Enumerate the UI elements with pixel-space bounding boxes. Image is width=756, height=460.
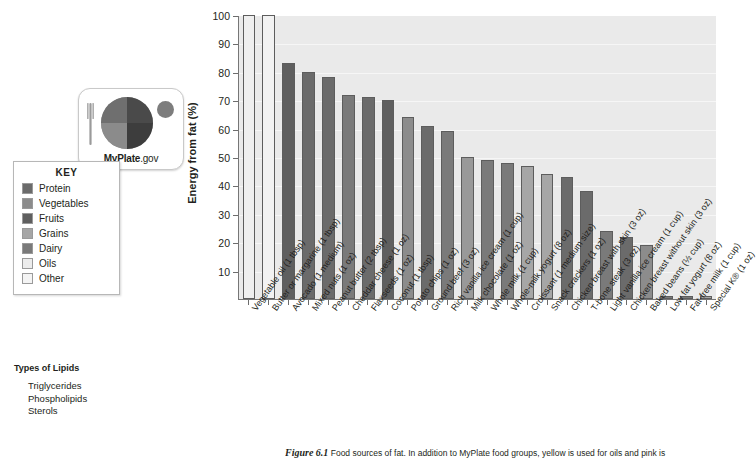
chart-legend: KEY ProteinVegetablesFruitsGrainsDairyOi…: [13, 161, 120, 295]
y-tick-label: 100: [196, 10, 230, 22]
y-tick-label: 10: [196, 266, 230, 278]
lipids-heading: Types of Lipids: [14, 363, 164, 373]
myplate-logo: MyPlate.gov: [78, 88, 184, 170]
myplate-domain: .gov: [140, 153, 158, 164]
y-tick-label: 30: [196, 209, 230, 221]
legend-item-label: Oils: [39, 259, 56, 269]
legend-item: Dairy: [14, 241, 119, 256]
bar: [243, 15, 256, 299]
legend-swatch: [22, 258, 33, 269]
legend-item-label: Grains: [39, 229, 68, 239]
legend-item: Fruits: [14, 211, 119, 226]
dairy-cup-icon: [157, 101, 174, 118]
y-tick-label: 40: [196, 180, 230, 192]
legend-item: Oils: [14, 256, 119, 271]
bar-slot: [259, 16, 279, 299]
y-tick-label: 50: [196, 152, 230, 164]
legend-swatch: [22, 273, 33, 284]
plate-icon: [101, 97, 153, 149]
figure-caption-text: Food sources of fat. In addition to MyPl…: [331, 448, 666, 458]
legend-swatch: [22, 198, 33, 209]
bar-slot: [239, 16, 259, 299]
legend-item-label: Protein: [39, 184, 71, 194]
fork-icon: [87, 103, 94, 145]
figure-caption: Figure 6.1 Food sources of fat. In addit…: [285, 447, 717, 459]
lipid-item: Sterols: [28, 405, 164, 418]
legend-item: Grains: [14, 226, 119, 241]
legend-item: Other: [14, 271, 119, 286]
legend-item: Vegetables: [14, 196, 119, 211]
y-tick-label: 60: [196, 124, 230, 136]
lipid-item: Triglycerides: [28, 380, 164, 393]
lipid-item: Phospholipids: [28, 393, 164, 406]
y-tick-label: 90: [196, 38, 230, 50]
legend-item-label: Vegetables: [39, 199, 89, 209]
y-tick-label: 20: [196, 237, 230, 249]
legend-item-label: Dairy: [39, 244, 62, 254]
figure-number: Figure 6.1: [285, 447, 328, 458]
y-tick-label: 70: [196, 95, 230, 107]
y-tick-label: 80: [196, 67, 230, 79]
legend-item-label: Fruits: [39, 214, 64, 224]
types-of-lipids-block: Types of Lipids TriglyceridesPhospholipi…: [14, 363, 164, 418]
legend-swatch: [22, 183, 33, 194]
bar: [262, 15, 275, 299]
legend-swatch: [22, 228, 33, 239]
legend-swatch: [22, 213, 33, 224]
legend-item-label: Other: [39, 274, 64, 284]
legend-title: KEY: [14, 167, 119, 178]
legend-swatch: [22, 243, 33, 254]
legend-item: Protein: [14, 181, 119, 196]
